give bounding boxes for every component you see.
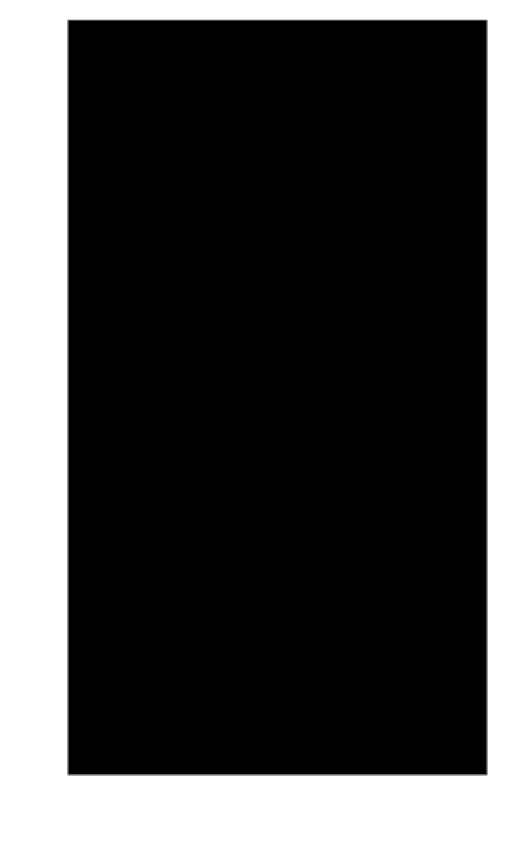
ionization-energy-figure bbox=[0, 0, 515, 858]
ionization-energy-chart bbox=[0, 0, 515, 858]
plot-area-background bbox=[68, 20, 487, 775]
